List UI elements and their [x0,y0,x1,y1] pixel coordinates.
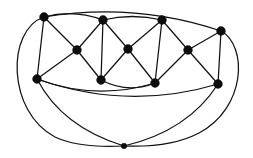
vertex-top-mid-left [99,16,108,25]
vertex-mid-left [73,46,82,55]
vertex-top-mid-right [158,16,167,25]
vertex-top-right [217,27,226,36]
vertex-low-mid-left [97,76,106,85]
vertex-bottom [121,143,127,149]
graph-figure [0,0,253,158]
vertex-low-mid-right [151,79,160,88]
vertex-low-left [33,75,42,84]
vertex-mid-center [124,45,133,54]
vertex-mid-right [184,46,193,55]
graph-canvas [0,0,253,158]
vertex-low-right [214,80,223,89]
vertex-top-left [40,13,49,22]
